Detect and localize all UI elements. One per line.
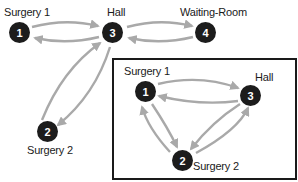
edge-hall-to-waitingroom bbox=[127, 22, 192, 27]
edge-hall-to-surgery2 bbox=[58, 47, 110, 125]
inset-label-surgery-2: Surgery 2 bbox=[193, 160, 239, 172]
inset-node-surgery-1: 1 bbox=[135, 81, 156, 102]
node-waiting-room: 4 bbox=[195, 22, 216, 43]
label-hall: Hall bbox=[107, 6, 125, 18]
node-surgery-1: 1 bbox=[9, 22, 30, 43]
label-waiting-room: Waiting-Room bbox=[180, 6, 247, 18]
edge-surgery1-to-hall bbox=[32, 22, 98, 27]
label-surgery-1: Surgery 1 bbox=[4, 6, 50, 18]
node-hall: 3 bbox=[102, 22, 123, 43]
edge-waitingroom-to-hall bbox=[129, 37, 193, 41]
inset-label-hall: Hall bbox=[255, 71, 273, 83]
node-surgery-2: 2 bbox=[37, 121, 58, 142]
label-surgery-2: Surgery 2 bbox=[27, 144, 73, 156]
edge-surgery2-to-hall bbox=[42, 43, 100, 120]
edge-hall-to-surgery1 bbox=[35, 37, 99, 41]
inset-node-surgery-2: 2 bbox=[172, 150, 193, 171]
inset-node-hall: 3 bbox=[240, 85, 261, 106]
inset-label-surgery-1: Surgery 1 bbox=[124, 65, 170, 77]
